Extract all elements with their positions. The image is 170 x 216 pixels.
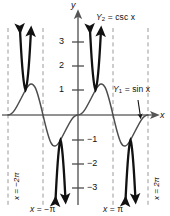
y-tick-minus-3: −3: [87, 182, 97, 192]
csc-label-subscript: 2: [102, 16, 105, 22]
y-tick-minus-1: −1: [87, 134, 97, 144]
y-axis-label: y: [71, 0, 76, 10]
sin-curve-label: Y1 = sin x: [113, 84, 150, 94]
y-tick-minus-2: −2: [87, 158, 97, 168]
csc-branch-upper-right: [90, 30, 101, 90]
coordinate-plot: [0, 0, 170, 216]
asym-right-eq: = 2π: [152, 177, 161, 194]
asym-neg-pi-eq: = −π: [37, 204, 56, 214]
csc-branch-upper-left: [20, 30, 31, 90]
asym-pos-pi-eq: = π: [110, 204, 124, 214]
csc-branch-lower-right: [126, 140, 136, 200]
x-axis-label: x: [160, 110, 165, 120]
asym-right-var: x: [152, 196, 161, 200]
graph-figure: y x 3 2 1 −1 −2 −3 Y2 = csc x Y1 = sin x…: [0, 0, 170, 216]
y-tick-3: 3: [59, 36, 64, 46]
axes: [2, 14, 155, 205]
csc-label-equation: = csc x: [108, 12, 135, 22]
asym-left-var: x: [12, 196, 21, 200]
y-tick-1: 1: [59, 84, 64, 94]
asym-left-eq: = −2π: [12, 172, 21, 193]
sin-label-equation: = sin x: [125, 84, 151, 94]
asym-pos-pi-var: x: [103, 204, 107, 214]
sin-label-subscript: 1: [119, 88, 122, 94]
asym-neg-pi-var: x: [30, 204, 34, 214]
asymptote-label-pi: x = π: [103, 204, 123, 214]
asymptote-label-minus-pi: x = −π: [30, 204, 55, 214]
csc-branch-lower-left: [56, 140, 66, 200]
csc-curve-label: Y2 = csc x: [96, 12, 135, 22]
asymptote-label-2pi: x = 2π: [152, 177, 161, 200]
y-tick-2: 2: [59, 60, 64, 70]
asymptote-label-minus-2pi: x = −2π: [12, 172, 21, 200]
